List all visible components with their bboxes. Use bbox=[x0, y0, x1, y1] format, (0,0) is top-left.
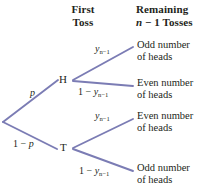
header-first-toss-line1: First bbox=[52, 3, 114, 16]
header-first-toss-line2: Toss bbox=[52, 16, 114, 29]
outcome-2-line2: of heads bbox=[137, 89, 193, 101]
branch-tails-to-even bbox=[73, 119, 133, 148]
node-tails: T bbox=[60, 142, 67, 153]
outcome-3-line1: Even number bbox=[137, 110, 193, 122]
header-remaining-rest: − 1 Tosses bbox=[145, 16, 193, 28]
label-1mp-var: p bbox=[29, 138, 34, 149]
outcome-label-4: Odd number of heads bbox=[137, 162, 190, 185]
outcome-4-line2: of heads bbox=[137, 174, 190, 186]
outcome-1-line2: of heads bbox=[137, 51, 190, 63]
label-y-heads-sub: n−1 bbox=[99, 48, 109, 55]
outcome-label-3: Even number of heads bbox=[137, 110, 193, 133]
header-first-toss: First Toss bbox=[52, 3, 114, 28]
header-remaining-line1: Remaining bbox=[136, 3, 210, 16]
header-remaining-tosses: Remaining n − 1 Tosses bbox=[136, 3, 210, 28]
label-probability-one-minus-p: 1 − p bbox=[13, 139, 34, 149]
outcome-label-2: Even number of heads bbox=[137, 77, 193, 100]
outcome-4-line1: Odd number bbox=[137, 162, 190, 174]
label-1my-heads-sub: n−1 bbox=[98, 91, 108, 98]
label-probability-p: p bbox=[30, 88, 35, 98]
header-remaining-line2: n − 1 Tosses bbox=[136, 16, 210, 29]
outcome-2-line1: Even number bbox=[137, 77, 193, 89]
label-p-var: p bbox=[30, 87, 35, 98]
label-probability-one-minus-y-heads: 1 − yn−1 bbox=[78, 87, 108, 98]
label-probability-y-heads: yn−1 bbox=[95, 44, 110, 55]
outcome-label-1: Odd number of heads bbox=[137, 39, 190, 62]
header-remaining-n: n bbox=[136, 16, 142, 28]
outcome-1-line1: Odd number bbox=[137, 39, 190, 51]
label-1my-heads-prefix: 1 − bbox=[78, 86, 94, 97]
label-1my-tails-prefix: 1 − bbox=[79, 165, 95, 176]
label-1my-tails-sub: n−1 bbox=[99, 170, 109, 177]
label-y-tails-sub: n−1 bbox=[99, 115, 109, 122]
label-1mp-prefix: 1 − bbox=[13, 138, 29, 149]
tree-diagram-figure: First Toss Remaining n − 1 Tosses H T p … bbox=[0, 0, 210, 191]
label-probability-y-tails: yn−1 bbox=[95, 111, 110, 122]
node-heads: H bbox=[59, 74, 67, 85]
label-probability-one-minus-y-tails: 1 − yn−1 bbox=[79, 166, 109, 177]
outcome-3-line2: of heads bbox=[137, 122, 193, 134]
